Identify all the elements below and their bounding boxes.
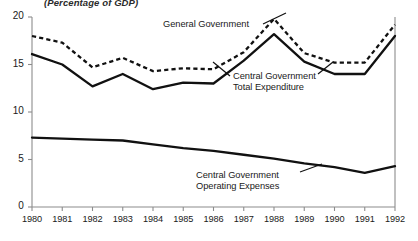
annotation-leader-line: [263, 13, 286, 24]
y-tick-label: 10: [0, 105, 24, 116]
y-tick-label: 5: [0, 153, 24, 164]
annotation-general-government-label: General Government: [163, 19, 249, 29]
chart-plot-area: [0, 0, 418, 241]
annotation-central-total-expenditure: Central Government Total Expenditure: [233, 71, 316, 92]
x-tick-label: 1981: [45, 214, 79, 224]
series-group: [32, 19, 395, 173]
x-tick-label: 1982: [76, 214, 110, 224]
series-line-central-operating: [32, 138, 395, 173]
x-tick-label: 1990: [318, 214, 352, 224]
x-tick-label: 1985: [166, 214, 200, 224]
x-tick-label: 1991: [348, 214, 382, 224]
x-tick-label: 1987: [227, 214, 261, 224]
annotation-general-government: General Government: [163, 19, 249, 30]
annotation-central-operating-line2: Operating Expenses: [196, 181, 279, 192]
x-tick-label: 1989: [287, 214, 321, 224]
x-tick-label: 1986: [197, 214, 231, 224]
x-tick-label: 1984: [136, 214, 170, 224]
y-tick-label: 20: [0, 10, 24, 21]
chart-container: (Percentage of GDP) 20151050 19801981198…: [0, 0, 418, 241]
y-tick-label: 0: [0, 200, 24, 211]
x-tick-label: 1992: [378, 214, 412, 224]
y-tick-marks: [28, 17, 32, 207]
annotation-leader-lines: [213, 13, 333, 172]
x-tick-label: 1983: [106, 214, 140, 224]
annotation-central-total-line1: Central Government: [233, 71, 316, 82]
annotation-central-operating-expenses: Central Government Operating Expenses: [196, 170, 279, 191]
annotation-central-operating-line1: Central Government: [196, 170, 279, 181]
x-tick-label: 1988: [257, 214, 291, 224]
annotation-central-total-line2: Total Expenditure: [233, 82, 316, 93]
y-tick-label: 15: [0, 58, 24, 69]
x-tick-marks: [32, 207, 395, 211]
x-tick-label: 1980: [15, 214, 49, 224]
